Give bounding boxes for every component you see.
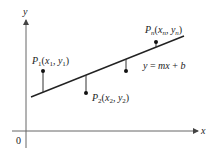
label-pn: Pn(xn, yn)	[144, 24, 182, 37]
regression-equation-label: y = mx + b	[142, 60, 185, 71]
origin-label: 0	[16, 135, 21, 146]
point-p2	[84, 91, 88, 95]
x-axis-label: x	[200, 125, 206, 136]
regression-diagram: x y 0 P1(x1, y1) P2(x2, y2) Pn(xn, yn) y…	[0, 0, 213, 153]
point-pn	[154, 40, 158, 44]
point-p1	[41, 69, 45, 73]
point-p3	[124, 69, 128, 73]
label-p2: P2(x2, y2)	[91, 92, 129, 105]
label-p1: P1(x1, y1)	[31, 55, 69, 68]
y-axis-label: y	[22, 6, 28, 17]
